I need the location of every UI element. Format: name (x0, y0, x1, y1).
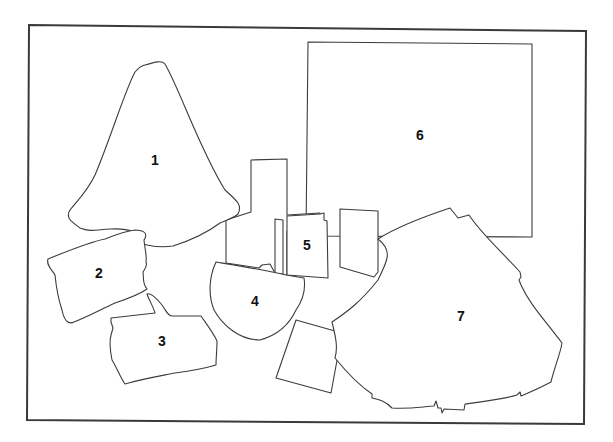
piece-label-7: 7 (457, 308, 465, 324)
piece-label-3: 3 (158, 333, 166, 349)
numbered-shapes-diagram: 6123547 (0, 0, 613, 442)
piece-label-6: 6 (416, 127, 424, 143)
piece-label-4: 4 (251, 293, 259, 309)
piece-label-2: 2 (95, 265, 103, 281)
piece-label-5: 5 (303, 237, 311, 253)
piece-label-1: 1 (151, 152, 159, 168)
unlabeled-piece-narrow-strip (275, 219, 283, 274)
unlabeled-piece-right-small-rect (340, 209, 378, 277)
